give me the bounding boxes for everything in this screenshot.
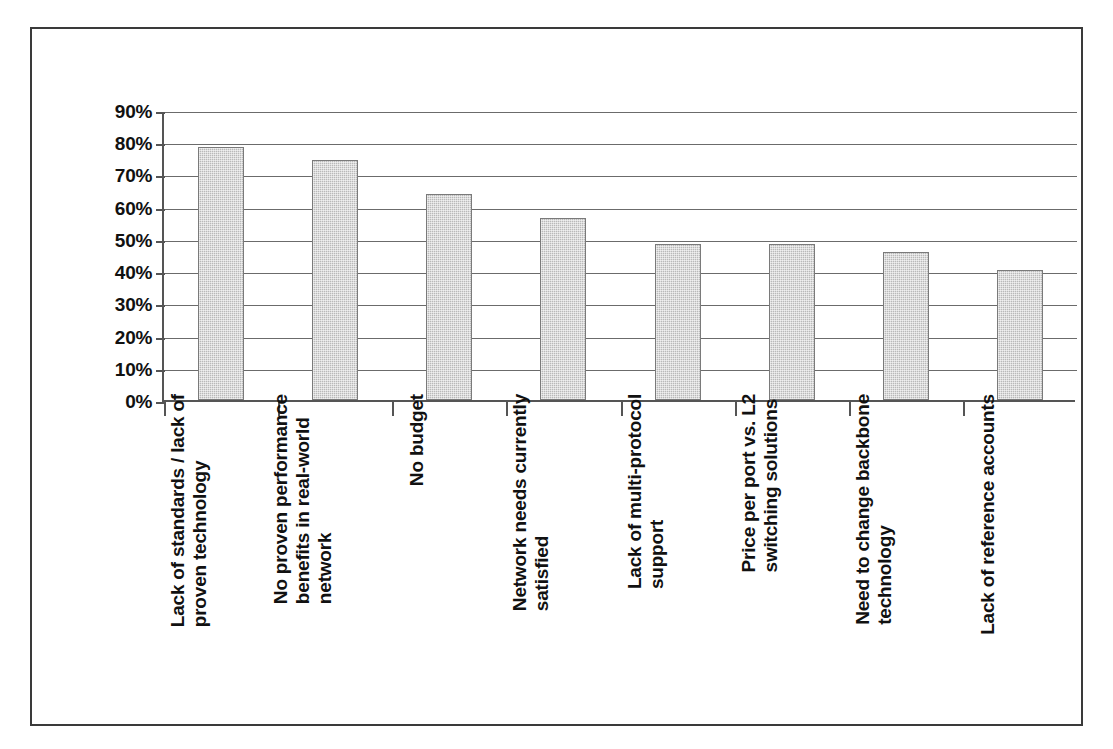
x-tick-mark [735, 402, 737, 416]
y-tick-label: 0% [125, 391, 152, 413]
gridline [164, 209, 1077, 210]
gridline [164, 144, 1077, 145]
x-axis-label: Lack of multi-protocolsupport [624, 394, 668, 589]
x-axis-label-line: Price per port vs. L2 [738, 394, 760, 572]
x-axis-label-line: technology [874, 526, 896, 625]
x-axis-label-line: proven technology [189, 461, 211, 628]
y-tick-label: 60% [115, 198, 152, 220]
y-tick-mark [156, 209, 165, 211]
x-axis-label-line: Lack of reference accounts [977, 394, 999, 635]
bar[interactable] [769, 244, 815, 400]
y-tick-label: 50% [115, 230, 152, 252]
y-tick-mark [156, 370, 165, 372]
gridline [164, 338, 1077, 339]
chart-figure: 90%80%70%60%50%40%30%20%10%0% Lack of st… [0, 0, 1113, 749]
gridline [164, 273, 1077, 274]
gridline [164, 241, 1077, 242]
y-tick-mark [156, 338, 165, 340]
y-tick-mark [156, 273, 165, 275]
x-axis-label-line: Network needs currently [509, 394, 531, 611]
y-tick-mark [156, 112, 165, 114]
gridline [164, 176, 1077, 177]
x-axis-label-line: benefits in real-world [292, 417, 314, 604]
x-axis-label-line: No proven performance [270, 394, 292, 604]
bar[interactable] [655, 244, 701, 400]
x-axis-label-line: network [314, 533, 336, 604]
bar[interactable] [198, 147, 244, 400]
x-axis-label: Need to change backbonetechnology [852, 394, 896, 625]
bar[interactable] [426, 194, 472, 400]
x-axis-label-line: satisfied [531, 536, 553, 611]
x-axis-label-line: No budget [406, 394, 428, 486]
y-tick-label: 80% [115, 133, 152, 155]
plot-area: 90%80%70%60%50%40%30%20%10%0% [162, 112, 1075, 402]
x-tick-mark [392, 402, 394, 416]
x-axis-label: Network needs currentlysatisfied [509, 394, 553, 611]
gridline [164, 370, 1077, 371]
y-tick-label: 90% [115, 101, 152, 123]
chart-outer-frame: 90%80%70%60%50%40%30%20%10%0% Lack of st… [30, 27, 1083, 726]
x-axis-label: Price per port vs. L2switching solutions [738, 394, 782, 572]
gridline [164, 305, 1077, 306]
x-axis-label: No budget [406, 394, 428, 486]
x-axis-label-line: support [646, 520, 668, 589]
y-tick-mark [156, 144, 165, 146]
y-tick-mark [156, 305, 165, 307]
gridline [164, 112, 1077, 113]
y-tick-label: 10% [115, 359, 152, 381]
x-axis-label: No proven performancebenefits in real-wo… [270, 394, 336, 604]
bar[interactable] [883, 252, 929, 400]
x-axis-label-line: switching solutions [760, 399, 782, 573]
x-axis-label-line: Lack of standards / lack of [167, 394, 189, 627]
x-tick-mark [164, 402, 166, 416]
y-tick-label: 40% [115, 262, 152, 284]
y-tick-mark [156, 241, 165, 243]
y-tick-label: 20% [115, 327, 152, 349]
x-tick-mark [963, 402, 965, 416]
x-tick-mark [621, 402, 623, 416]
y-tick-label: 30% [115, 294, 152, 316]
x-axis-label: Lack of standards / lack ofproven techno… [167, 394, 211, 627]
x-axis-label: Lack of reference accounts [977, 394, 999, 635]
bar[interactable] [312, 160, 358, 400]
bar[interactable] [997, 270, 1043, 401]
y-tick-mark [156, 176, 165, 178]
x-tick-mark [849, 402, 851, 416]
bar[interactable] [540, 218, 586, 400]
x-axis-label-line: Need to change backbone [852, 394, 874, 625]
x-axis-label-line: Lack of multi-protocol [624, 394, 646, 589]
y-tick-label: 70% [115, 165, 152, 187]
